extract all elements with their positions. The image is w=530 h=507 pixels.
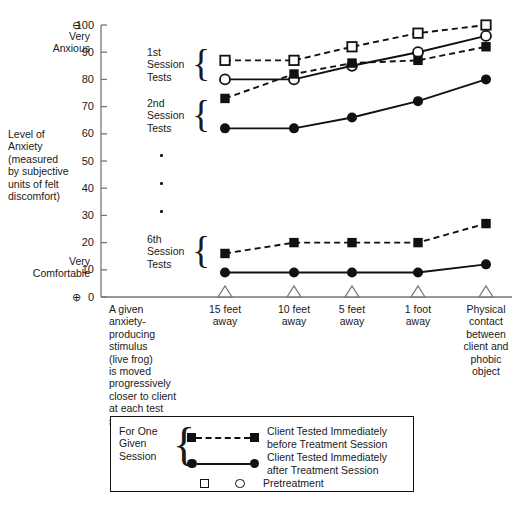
filled-square-marker-icon <box>347 238 356 247</box>
brace-6th-session-icon: { <box>192 231 210 269</box>
legend-sample-after <box>187 459 259 469</box>
y-tick-70: 70 <box>68 101 94 112</box>
x-tick-triangle-1 <box>287 286 301 297</box>
x-tick-triangle-4 <box>479 286 493 297</box>
filled-square-marker-icon <box>187 433 196 442</box>
open-circle-marker-icon <box>235 479 245 489</box>
filled-square-marker-icon <box>220 249 229 258</box>
x-axis-note: A given anxiety- producing stimulus (liv… <box>109 303 201 427</box>
x-axis-category-15-feet: 15 feet away <box>189 303 261 328</box>
filled-circle-marker-icon <box>250 459 260 469</box>
filled-circle-marker-icon <box>413 268 423 278</box>
filled-circle-marker-icon <box>347 268 357 278</box>
group-label-1st-session: 1st Session Tests <box>147 46 189 83</box>
filled-square-marker-icon <box>220 94 229 103</box>
series-line-2 <box>225 47 486 99</box>
open-circle-marker-icon <box>481 31 491 41</box>
open-square-marker-icon <box>347 42 356 51</box>
y-tick-0: 0 <box>68 292 94 303</box>
y-tick-50: 50 <box>68 156 94 167</box>
group-label-6th-session: 6th Session Tests <box>147 233 189 270</box>
series-3 <box>220 74 491 133</box>
filled-circle-marker-icon <box>481 259 491 269</box>
open-square-marker-icon <box>220 56 229 65</box>
ellipsis-dot <box>160 154 163 157</box>
filled-square-marker-icon <box>481 42 490 51</box>
x-axis-category-1-foot: 1 foot away <box>382 303 454 328</box>
x-axis-category-physical-contact: Physical contact between client and phob… <box>450 303 522 377</box>
open-circle-marker-icon <box>220 74 230 84</box>
series-5 <box>220 259 491 277</box>
open-square-marker-icon <box>481 20 490 29</box>
legend-bracket-label: For One Given Session <box>119 425 173 462</box>
series-4 <box>220 219 490 258</box>
open-square-marker-icon <box>200 479 209 488</box>
y-tick-10: 10 <box>68 264 94 275</box>
legend-entry-before-treatment: Client Tested Immediately before Treatme… <box>187 425 407 450</box>
brace-2nd-session-icon: { <box>192 95 210 133</box>
y-tick-40: 40 <box>68 183 94 194</box>
y-tick-60: 60 <box>68 128 94 139</box>
dashed-line-sample <box>196 437 250 439</box>
series-0 <box>220 20 490 65</box>
legend-label-pretreatment: Pretreatment <box>263 477 324 490</box>
open-square-marker-icon <box>413 28 422 37</box>
legend-label-before-line2: before Treatment Session <box>267 438 387 451</box>
legend-label-before-line1: Client Tested Immediately <box>267 425 387 438</box>
legend-entry-pretreatment: Pretreatment <box>187 477 407 490</box>
ellipsis-dot <box>160 210 163 213</box>
filled-square-marker-icon <box>347 58 356 67</box>
series-1 <box>220 31 491 85</box>
filled-circle-marker-icon <box>220 268 230 278</box>
y-tick-20: 20 <box>68 237 94 248</box>
filled-circle-marker-icon <box>289 123 299 133</box>
y-tick-100: 100 <box>68 20 94 31</box>
x-tick-triangle-3 <box>411 286 425 297</box>
open-square-marker-icon <box>289 56 298 65</box>
filled-circle-marker-icon <box>289 268 299 278</box>
filled-square-marker-icon <box>250 433 259 442</box>
filled-square-marker-icon <box>289 69 298 78</box>
legend-entry-after-treatment: Client Tested Immediately after Treatmen… <box>187 451 407 476</box>
filled-circle-marker-icon <box>347 112 357 122</box>
filled-square-marker-icon <box>481 219 490 228</box>
legend-label-after-line1: Client Tested Immediately <box>267 451 387 464</box>
y-tick-80: 80 <box>68 74 94 85</box>
filled-square-marker-icon <box>413 238 422 247</box>
group-label-2nd-session: 2nd Session Tests <box>147 97 189 134</box>
x-axis-category-5-feet: 5 feet away <box>316 303 388 328</box>
x-tick-triangle-2 <box>345 286 359 297</box>
filled-circle-marker-icon <box>481 74 491 84</box>
solid-line-sample <box>197 463 250 465</box>
legend-label-after-line2: after Treatment Session <box>267 464 387 477</box>
chart-legend: For One Given Session { Client Tested Im… <box>110 416 414 492</box>
legend-sample-before <box>187 433 259 442</box>
filled-square-marker-icon <box>289 238 298 247</box>
x-tick-triangle-0 <box>218 286 232 297</box>
brace-1st-session-icon: { <box>192 44 210 82</box>
filled-square-marker-icon <box>413 56 422 65</box>
filled-circle-marker-icon <box>187 459 197 469</box>
filled-circle-marker-icon <box>220 123 230 133</box>
ellipsis-dot <box>160 182 163 185</box>
filled-circle-marker-icon <box>413 96 423 106</box>
y-tick-90: 90 <box>68 47 94 58</box>
y-tick-30: 30 <box>68 210 94 221</box>
